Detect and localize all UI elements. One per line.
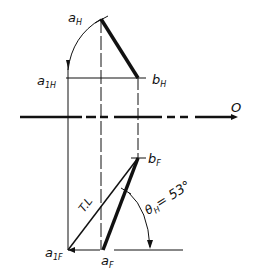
arrowhead-icon: [147, 240, 153, 249]
label-angle: θH= 53°: [142, 178, 195, 220]
diagram-canvas: aH bH a1H O bF aF a1F T.L θH= 53°: [0, 0, 255, 274]
line-ab-front-view: [103, 158, 138, 250]
label-b-f: bF: [148, 151, 161, 168]
label-a1-f: a1F: [45, 245, 63, 262]
label-b-h: bH: [152, 72, 166, 89]
label-a-f: aF: [101, 253, 114, 270]
folding-axis-line: [20, 114, 238, 120]
label-a-h: aH: [68, 10, 82, 27]
rotation-arc-top: [68, 19, 101, 70]
label-a1-h: a1H: [37, 73, 56, 90]
label-axis-o: O: [231, 100, 241, 115]
line-ab-top-view: [101, 19, 138, 78]
angle-arc: [129, 193, 150, 247]
label-true-length: T.L: [76, 195, 95, 215]
orthographic-projection-diagram: aH bH a1H O bF aF a1F T.L θH= 53°: [0, 0, 255, 274]
